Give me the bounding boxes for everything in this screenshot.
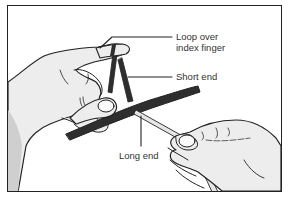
label-loop-over-index-finger: Loop over index finger	[176, 32, 225, 53]
label-loop-line2: index finger	[176, 43, 225, 54]
label-long-end: Long end	[119, 151, 159, 162]
label-loop-line1: Loop over	[176, 32, 225, 43]
left-thumbnail	[98, 100, 114, 112]
rope-knot-illustration	[0, 0, 290, 200]
label-short-end: Short end	[176, 72, 217, 83]
right-thumbnail	[179, 135, 195, 147]
right-hand	[168, 120, 281, 191]
